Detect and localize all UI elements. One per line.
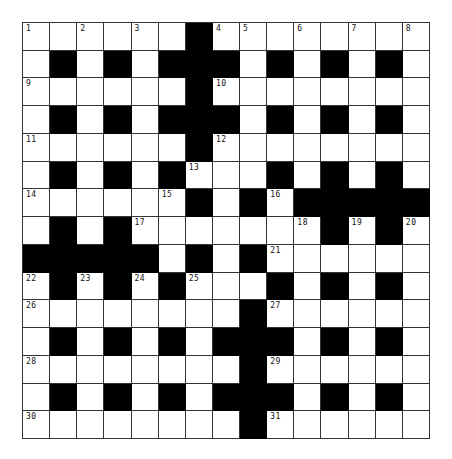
crossword-cell[interactable]: [213, 162, 240, 190]
crossword-cell[interactable]: 18: [294, 217, 321, 245]
crossword-cell[interactable]: [321, 300, 348, 328]
crossword-cell[interactable]: [321, 23, 348, 51]
crossword-cell[interactable]: 13: [186, 162, 213, 190]
crossword-cell[interactable]: 27: [267, 300, 294, 328]
crossword-cell[interactable]: 21: [267, 245, 294, 273]
crossword-cell[interactable]: [349, 162, 376, 190]
crossword-cell[interactable]: [159, 411, 186, 439]
crossword-cell[interactable]: [403, 411, 430, 439]
crossword-cell[interactable]: [376, 411, 403, 439]
crossword-cell[interactable]: [132, 356, 159, 384]
crossword-cell[interactable]: [159, 78, 186, 106]
crossword-cell[interactable]: [50, 300, 77, 328]
crossword-cell[interactable]: [403, 356, 430, 384]
crossword-cell[interactable]: 1: [23, 23, 50, 51]
crossword-cell[interactable]: 12: [213, 134, 240, 162]
crossword-cell[interactable]: [349, 384, 376, 412]
crossword-cell[interactable]: [349, 245, 376, 273]
crossword-cell[interactable]: [213, 356, 240, 384]
crossword-cell[interactable]: [77, 300, 104, 328]
crossword-cell[interactable]: [294, 328, 321, 356]
crossword-cell[interactable]: [23, 51, 50, 79]
crossword-cell[interactable]: [77, 411, 104, 439]
crossword-cell[interactable]: [132, 162, 159, 190]
crossword-cell[interactable]: [403, 106, 430, 134]
crossword-cell[interactable]: 7: [349, 23, 376, 51]
crossword-cell[interactable]: [23, 106, 50, 134]
crossword-cell[interactable]: [240, 217, 267, 245]
crossword-cell[interactable]: [349, 78, 376, 106]
crossword-cell[interactable]: [349, 273, 376, 301]
crossword-cell[interactable]: [104, 356, 131, 384]
crossword-cell[interactable]: [132, 106, 159, 134]
crossword-cell[interactable]: [294, 106, 321, 134]
crossword-cell[interactable]: 25: [186, 273, 213, 301]
crossword-cell[interactable]: [159, 300, 186, 328]
crossword-cell[interactable]: [50, 134, 77, 162]
crossword-cell[interactable]: [23, 162, 50, 190]
crossword-cell[interactable]: 28: [23, 356, 50, 384]
crossword-cell[interactable]: [376, 23, 403, 51]
crossword-cell[interactable]: [403, 328, 430, 356]
crossword-cell[interactable]: 17: [132, 217, 159, 245]
crossword-cell[interactable]: 19: [349, 217, 376, 245]
crossword-cell[interactable]: [240, 51, 267, 79]
crossword-cell[interactable]: [50, 23, 77, 51]
crossword-cell[interactable]: 20: [403, 217, 430, 245]
crossword-cell[interactable]: [132, 189, 159, 217]
crossword-cell[interactable]: 6: [294, 23, 321, 51]
crossword-cell[interactable]: 30: [23, 411, 50, 439]
crossword-cell[interactable]: [349, 51, 376, 79]
crossword-cell[interactable]: [213, 189, 240, 217]
crossword-cell[interactable]: [240, 78, 267, 106]
crossword-cell[interactable]: [132, 328, 159, 356]
crossword-cell[interactable]: 11: [23, 134, 50, 162]
crossword-cell[interactable]: [294, 411, 321, 439]
crossword-cell[interactable]: 29: [267, 356, 294, 384]
crossword-cell[interactable]: [376, 300, 403, 328]
crossword-cell[interactable]: [294, 51, 321, 79]
crossword-cell[interactable]: [77, 106, 104, 134]
crossword-cell[interactable]: [104, 300, 131, 328]
crossword-cell[interactable]: [186, 411, 213, 439]
crossword-cell[interactable]: [294, 78, 321, 106]
crossword-cell[interactable]: [294, 273, 321, 301]
crossword-cell[interactable]: [77, 384, 104, 412]
crossword-cell[interactable]: [23, 328, 50, 356]
crossword-cell[interactable]: [294, 245, 321, 273]
crossword-cell[interactable]: [349, 106, 376, 134]
crossword-cell[interactable]: [77, 189, 104, 217]
crossword-cell[interactable]: [294, 356, 321, 384]
crossword-cell[interactable]: [376, 245, 403, 273]
crossword-cell[interactable]: [349, 300, 376, 328]
crossword-cell[interactable]: [23, 217, 50, 245]
crossword-cell[interactable]: [77, 356, 104, 384]
crossword-cell[interactable]: [50, 189, 77, 217]
crossword-cell[interactable]: [132, 78, 159, 106]
crossword-cell[interactable]: [349, 134, 376, 162]
crossword-cell[interactable]: [77, 217, 104, 245]
crossword-cell[interactable]: [403, 245, 430, 273]
crossword-cell[interactable]: [50, 78, 77, 106]
crossword-cell[interactable]: [403, 134, 430, 162]
crossword-cell[interactable]: [376, 356, 403, 384]
crossword-cell[interactable]: 8: [403, 23, 430, 51]
crossword-cell[interactable]: [403, 384, 430, 412]
crossword-cell[interactable]: 31: [267, 411, 294, 439]
crossword-cell[interactable]: 24: [132, 273, 159, 301]
crossword-cell[interactable]: 10: [213, 78, 240, 106]
crossword-cell[interactable]: [104, 23, 131, 51]
crossword-cell[interactable]: [104, 411, 131, 439]
crossword-cell[interactable]: [132, 134, 159, 162]
crossword-cell[interactable]: [104, 78, 131, 106]
crossword-cell[interactable]: [213, 273, 240, 301]
crossword-cell[interactable]: [50, 356, 77, 384]
crossword-cell[interactable]: [213, 217, 240, 245]
crossword-cell[interactable]: [349, 411, 376, 439]
crossword-cell[interactable]: [213, 245, 240, 273]
crossword-cell[interactable]: [104, 134, 131, 162]
crossword-cell[interactable]: [403, 162, 430, 190]
crossword-cell[interactable]: 4: [213, 23, 240, 51]
crossword-cell[interactable]: [267, 23, 294, 51]
crossword-cell[interactable]: [213, 300, 240, 328]
